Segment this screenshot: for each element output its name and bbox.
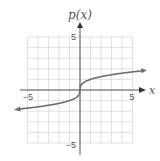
y-axis-arrow-icon [77, 22, 83, 28]
curve-left-arrow-icon [14, 107, 21, 112]
x-tick-5: 5 [129, 92, 134, 102]
axes [20, 22, 146, 155]
x-axis-arrow-icon [139, 87, 146, 93]
y-axis-label: p(x) [68, 8, 92, 22]
x-tick-neg5: −5 [23, 92, 33, 102]
y-tick-neg5: −5 [66, 140, 76, 150]
x-axis-label: x [149, 84, 156, 97]
y-tick-5: 5 [71, 32, 76, 42]
cube-root-graph: p(x) x −5 5 5 −5 [0, 0, 160, 161]
curve-right-arrow-icon [141, 68, 147, 73]
